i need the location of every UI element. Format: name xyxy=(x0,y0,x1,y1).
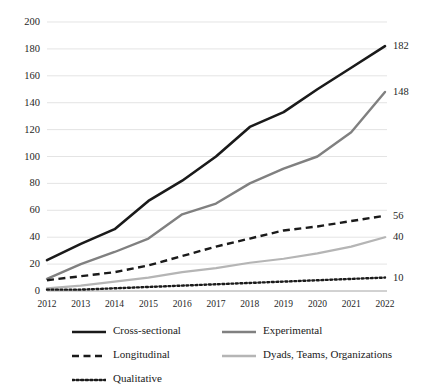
y-tick-label: 160 xyxy=(0,71,40,82)
series-line-3 xyxy=(47,237,385,288)
legend-item[interactable]: Qualitative xyxy=(72,372,162,384)
legend-item[interactable]: Cross-sectional xyxy=(72,324,181,336)
series-end-label: 56 xyxy=(393,211,404,222)
series-line-0 xyxy=(47,46,385,260)
legend-line-swatch-icon xyxy=(72,324,106,336)
series-line-2 xyxy=(47,216,385,281)
legend-label: Qualitative xyxy=(113,372,162,384)
legend-label: Longitudinal xyxy=(113,348,170,360)
legend-line-swatch-icon xyxy=(222,324,256,336)
series-end-label: 182 xyxy=(393,41,409,52)
y-tick-label: 180 xyxy=(0,44,40,55)
plot-area: 020406080100120140160180200 201220132014… xyxy=(0,0,423,312)
legend-label: Experimental xyxy=(263,324,322,336)
legend-line-swatch-icon xyxy=(222,348,256,360)
line-chart: 020406080100120140160180200 201220132014… xyxy=(0,0,423,389)
series-end-label: 148 xyxy=(393,87,409,98)
legend-item[interactable]: Experimental xyxy=(222,324,322,336)
legend-line-swatch-icon xyxy=(72,372,106,384)
series-lines xyxy=(47,46,385,289)
plot-svg xyxy=(0,0,423,312)
legend-label: Cross-sectional xyxy=(113,324,181,336)
x-tick-label: 2022 xyxy=(363,300,407,310)
y-tick-label: 200 xyxy=(0,17,40,28)
y-tick-label: 120 xyxy=(0,125,40,136)
chart-legend: Cross-sectionalExperimentalLongitudinalD… xyxy=(0,318,423,389)
y-tick-label: 40 xyxy=(0,232,40,243)
y-tick-label: 60 xyxy=(0,205,40,216)
series-end-label: 10 xyxy=(393,273,404,284)
y-tick-label: 20 xyxy=(0,259,40,270)
series-end-label: 40 xyxy=(393,232,404,243)
y-tick-label: 0 xyxy=(0,286,40,297)
legend-line-swatch-icon xyxy=(72,348,106,360)
y-tick-label: 140 xyxy=(0,98,40,109)
legend-label: Dyads, Teams, Organizations xyxy=(263,348,392,360)
legend-item[interactable]: Dyads, Teams, Organizations xyxy=(222,348,392,360)
y-tick-label: 100 xyxy=(0,152,40,163)
legend-item[interactable]: Longitudinal xyxy=(72,348,170,360)
y-tick-label: 80 xyxy=(0,178,40,189)
